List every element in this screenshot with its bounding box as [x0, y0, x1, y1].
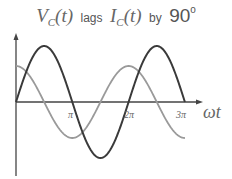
- x-axis-arrow-icon: [196, 100, 203, 105]
- tick-2pi: 2π: [124, 109, 135, 120]
- tick-pi: π: [68, 109, 74, 120]
- tick-3pi: 3π: [175, 109, 187, 120]
- y-axis-arrow-icon: [14, 33, 19, 40]
- x-axis-label: ωt: [203, 102, 222, 122]
- waveform-plot: π 2π 3π ωt: [0, 0, 232, 179]
